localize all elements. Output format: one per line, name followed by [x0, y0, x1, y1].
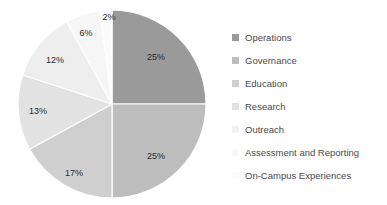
pie-chart-figure: 25%25%17%13%12%6%2% OperationsGovernance…	[0, 0, 387, 205]
legend-item-label: Governance	[245, 56, 297, 66]
legend-swatch-icon	[232, 126, 239, 133]
legend-item[interactable]: Research	[232, 95, 387, 118]
legend-swatch-icon	[232, 34, 239, 41]
legend-item-label: On-Campus Experiences	[245, 171, 351, 181]
legend-item[interactable]: On-Campus Experiences	[232, 164, 387, 187]
legend-swatch-icon	[232, 103, 239, 110]
legend-item-label: Assessment and Reporting	[245, 148, 359, 158]
pie-slice-group	[18, 10, 206, 198]
legend-swatch-icon	[232, 149, 239, 156]
legend-swatch-icon	[232, 57, 239, 64]
legend-item-label: Research	[245, 102, 286, 112]
legend-item[interactable]: Outreach	[232, 118, 387, 141]
legend-item[interactable]: Education	[232, 72, 387, 95]
pie-slice-value-label: 13%	[29, 106, 47, 116]
pie-slice-value-label: 12%	[46, 55, 64, 65]
chart-legend: OperationsGovernanceEducationResearchOut…	[232, 26, 387, 187]
pie-chart-plot-area: 25%25%17%13%12%6%2%	[0, 0, 225, 205]
legend-swatch-icon	[232, 80, 239, 87]
pie-slice-value-label: 17%	[65, 168, 83, 178]
legend-item-label: Education	[245, 79, 287, 89]
legend-item[interactable]: Assessment and Reporting	[232, 141, 387, 164]
pie-chart-svg	[0, 0, 225, 205]
pie-slice-value-label: 25%	[147, 151, 165, 161]
legend-item-label: Operations	[245, 33, 291, 43]
pie-slice-value-label: 25%	[147, 52, 165, 62]
pie-slice-value-label: 6%	[79, 28, 92, 38]
legend-item-label: Outreach	[245, 125, 284, 135]
pie-slice-value-label: 2%	[102, 12, 115, 22]
legend-item[interactable]: Governance	[232, 49, 387, 72]
legend-swatch-icon	[232, 172, 239, 179]
legend-item[interactable]: Operations	[232, 26, 387, 49]
